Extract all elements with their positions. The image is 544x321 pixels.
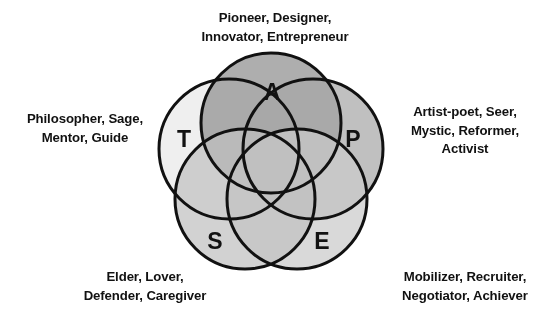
venn-letter-A: A xyxy=(264,79,281,105)
venn-diagram-figure: T A P E S Pioneer, Designer, Innovator, … xyxy=(0,0,544,321)
venn-letter-E: E xyxy=(314,228,329,254)
label-philosopher-group: Philosopher, Sage, Mentor, Guide xyxy=(14,110,156,147)
venn-letter-P: P xyxy=(345,126,360,152)
label-elder-group: Elder, Lover, Defender, Caregiver xyxy=(50,268,240,305)
venn-letter-T: T xyxy=(177,126,191,152)
venn-letter-S: S xyxy=(207,228,222,254)
label-pioneer-group: Pioneer, Designer, Innovator, Entreprene… xyxy=(180,9,370,46)
label-artist-poet-group: Artist-poet, Seer, Mystic, Reformer, Act… xyxy=(394,103,536,159)
label-mobilizer-group: Mobilizer, Recruiter, Negotiator, Achiev… xyxy=(380,268,544,305)
